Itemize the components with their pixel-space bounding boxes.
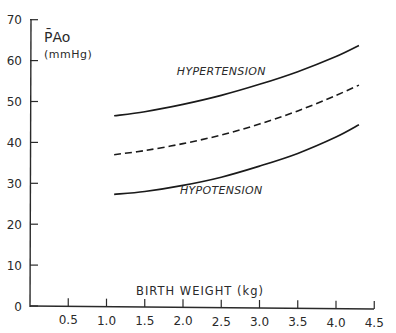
annotation-hypotension: HYPOTENSION [180,184,263,197]
series-hypertension-line [114,45,359,115]
y-tick-label: 0 [14,300,22,314]
x-axis-label: BIRTH WEIGHT (kg) [136,284,264,298]
x-tick-label: 4.0 [326,316,345,330]
x-tick-label: 2.5 [212,315,231,329]
x-tick-label: 3.5 [288,315,307,329]
x-axis: 0.51.01.52.02.53.03.54.04.5 [30,298,384,330]
y-axis-title: P̄Ao (mmHg) [44,28,92,61]
y-tick-label: 40 [7,136,22,150]
x-tick-label: 3.0 [250,315,269,329]
annotation-hypertension: HYPERTENSION [177,65,266,78]
x-tick-label: 4.5 [365,316,384,330]
chart: 010203040506070 0.51.01.52.02.53.03.54.0… [0,0,396,333]
y-tick-label: 30 [7,177,22,191]
y-axis-label: P̄Ao [44,28,70,45]
y-tick-label: 60 [7,54,22,68]
x-tick-label: 2.0 [173,314,192,328]
x-tick-label: 0.5 [59,313,78,327]
y-axis: 010203040506070 [7,13,38,313]
y-tick-label: 20 [7,218,22,232]
x-axis-line [30,306,374,309]
y-ticks: 010203040506070 [7,13,38,313]
y-tick-label: 10 [7,259,22,273]
x-tick-label: 1.5 [135,314,154,328]
y-tick-label: 70 [7,13,22,27]
series-mean-line [114,85,359,155]
y-axis-unit: (mmHg) [44,48,92,61]
x-ticks: 0.51.01.52.02.53.03.54.04.5 [59,298,384,330]
x-tick-label: 1.0 [97,314,116,328]
y-tick-label: 50 [7,95,22,109]
y-axis-line [30,19,31,307]
